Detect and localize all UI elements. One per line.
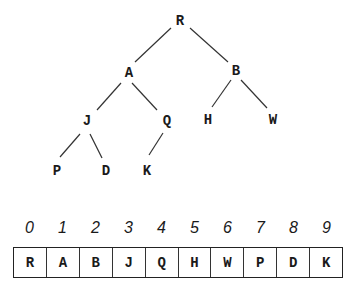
array-cell: D: [277, 248, 310, 277]
array-cell: P: [244, 248, 277, 277]
array-index: 7: [244, 219, 277, 239]
array-cell: K: [310, 248, 342, 277]
tree-node-A: A: [125, 66, 133, 80]
tree-edge-A-J: [97, 83, 121, 110]
tree-edge-B-H: [212, 80, 231, 107]
array-representation: R A B J Q H W P D K: [13, 247, 343, 278]
array-cell: W: [211, 248, 244, 277]
array-index: 4: [145, 219, 178, 239]
array-index: 3: [112, 219, 145, 239]
tree-node-W: W: [269, 113, 277, 127]
tree-node-H: H: [204, 113, 212, 127]
array-index: 1: [46, 219, 79, 239]
tree-node-B: B: [232, 64, 240, 78]
array-index: 5: [178, 219, 211, 239]
tree-edge-J-P: [60, 134, 80, 157]
array-index: 6: [211, 219, 244, 239]
array-cell: R: [14, 248, 47, 277]
tree-node-D: D: [102, 164, 110, 178]
tree-edge-J-D: [90, 134, 102, 158]
array-index: 2: [79, 219, 112, 239]
array-cell: A: [47, 248, 80, 277]
array-index: 8: [277, 219, 310, 239]
tree-node-R: R: [176, 14, 184, 28]
array-cell: B: [80, 248, 113, 277]
array-index: 9: [310, 219, 343, 239]
array-cell: H: [179, 248, 212, 277]
array-cell: Q: [146, 248, 179, 277]
array-cell: J: [113, 248, 146, 277]
tree-node-K: K: [143, 164, 151, 178]
tree-edge-Q-K: [149, 133, 163, 155]
tree-node-P: P: [53, 164, 61, 178]
array-index-row: 0 1 2 3 4 5 6 7 8 9: [13, 219, 343, 239]
tree-edge-R-B: [190, 28, 228, 62]
tree-edge-R-A: [135, 28, 171, 62]
tree-node-J: J: [83, 114, 91, 128]
array-index: 0: [13, 219, 46, 239]
tree-edge-B-W: [241, 80, 267, 108]
tree-edge-A-Q: [132, 83, 157, 110]
tree-node-Q: Q: [163, 114, 171, 128]
